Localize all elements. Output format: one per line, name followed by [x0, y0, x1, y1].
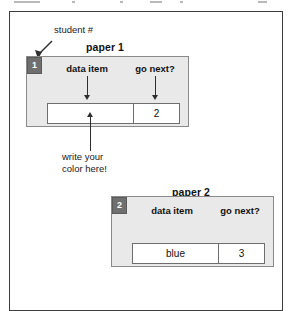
paper-2-cell-data-item[interactable]: blue	[133, 244, 219, 263]
paper-1-header-data-item: data item	[56, 63, 118, 74]
paper-1-badge: 1	[27, 57, 42, 74]
paper-1-go-next-down-arrow	[151, 76, 160, 100]
paper-1-cell-go-next[interactable]: 2	[134, 104, 179, 123]
write-color-note-line-1: write your	[62, 151, 103, 164]
scan-artifact-strip	[0, 0, 292, 4]
paper-2-header-go-next: go next?	[211, 205, 269, 216]
write-color-up-arrow	[86, 112, 95, 151]
paper-2-badge: 2	[112, 197, 127, 214]
paper-2-header-data-item: data item	[141, 205, 203, 216]
paper-2-table: blue 3	[132, 243, 265, 264]
paper-1-table: 2	[47, 103, 180, 124]
write-color-note-line-2: color here!	[62, 163, 107, 176]
student-number-label: student #	[54, 24, 93, 35]
paper-1-title: paper 1	[86, 41, 124, 53]
paper-2-cell-go-next[interactable]: 3	[219, 244, 264, 263]
paper-1-data-item-down-arrow	[83, 76, 92, 100]
paper-1-header-go-next: go next?	[126, 63, 184, 74]
